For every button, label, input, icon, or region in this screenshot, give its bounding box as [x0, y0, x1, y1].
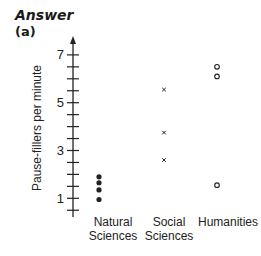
data-points: [96, 65, 219, 203]
filled-circle-marker-icon: [96, 180, 101, 185]
x-marker-icon: [162, 131, 166, 135]
category-label: Natural: [94, 215, 133, 229]
open-circle-marker-icon: [215, 74, 220, 79]
axis-arrow-icon: [70, 36, 76, 44]
filled-circle-marker-icon: [96, 187, 101, 192]
category-label: Humanities: [198, 215, 258, 229]
category-label: Sciences: [89, 229, 138, 243]
category-label: Sciences: [145, 229, 194, 243]
filled-circle-marker-icon: [96, 174, 101, 179]
y-tick-label: 5: [57, 95, 64, 110]
y-tick-label: 1: [57, 191, 64, 206]
filled-circle-marker-icon: [96, 197, 101, 202]
y-tick-label: 7: [57, 47, 64, 62]
category-label: Social: [153, 215, 186, 229]
category-labels: NaturalSciencesSocialSciencesHumanities: [89, 215, 258, 243]
y-tick-labels: 1357: [57, 47, 64, 205]
y-axis-title: Pause-fillers per minute: [30, 65, 44, 191]
dot-plot: Pause-fillers per minute 1357 NaturalSci…: [0, 0, 261, 256]
open-circle-marker-icon: [215, 65, 220, 70]
y-tick-label: 3: [57, 143, 64, 158]
open-circle-marker-icon: [215, 183, 220, 188]
x-marker-icon: [162, 88, 166, 92]
y-axis: [67, 36, 79, 217]
x-marker-icon: [162, 158, 166, 162]
